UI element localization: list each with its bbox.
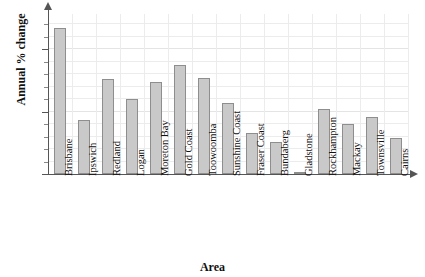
x-axis-title: Area bbox=[0, 260, 425, 275]
x-axis-tick-label: Gladstone bbox=[304, 133, 315, 176]
x-axis-tick-label: Ipswich bbox=[88, 143, 99, 176]
y-axis-arrow-icon bbox=[44, 2, 52, 10]
x-axis-tick-label: Fraser Coast bbox=[256, 123, 267, 176]
x-axis-tick-label: Rockhampton bbox=[328, 117, 339, 176]
x-axis-tick-label: Redland bbox=[112, 141, 123, 176]
x-axis-tick-label: Townsville bbox=[376, 129, 387, 176]
x-axis-tick-label: Gold Coast bbox=[184, 128, 195, 176]
x-axis-tick-label: Brisbane bbox=[64, 139, 75, 176]
x-axis-tick-label: Mackay bbox=[352, 142, 363, 176]
bar-chart: 0510 BrisbaneIpswichRedlandLoganMoreton … bbox=[0, 0, 425, 277]
y-axis-title: Annual % change bbox=[14, 0, 29, 125]
x-axis-tick-label: Moreton Bay bbox=[160, 120, 171, 176]
x-axis-tick-label: Sunshine Coast bbox=[232, 111, 243, 176]
y-axis-major-tick bbox=[42, 174, 48, 175]
x-axis-tick-label: Logan bbox=[136, 149, 147, 176]
x-axis-category-labels: BrisbaneIpswichRedlandLoganMoreton BayGo… bbox=[48, 176, 412, 250]
x-axis-tick-label: Bundaberg bbox=[280, 130, 291, 176]
x-axis-tick-label: Cairns bbox=[400, 149, 411, 176]
x-axis-tick-label: Toowoomba bbox=[208, 124, 219, 176]
